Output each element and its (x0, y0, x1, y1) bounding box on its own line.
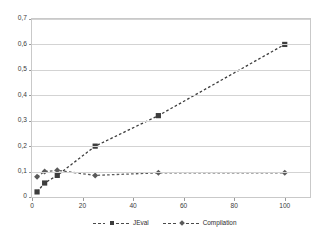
chart-container: 00,10,20,30,40,50,60,7 020406080100 JEva… (0, 0, 329, 246)
legend-item-compilation[interactable]: Compilation (163, 220, 237, 226)
legend-label-jeval: JEval (133, 220, 149, 226)
legend-line-dash-icon (186, 223, 201, 224)
legend-line-dash-icon (116, 223, 131, 224)
legend-square-marker-icon (110, 221, 115, 226)
data-point-square-marker (42, 180, 47, 185)
x-axis-tick-label: 0 (30, 203, 34, 210)
gridline (32, 95, 310, 96)
chart-legend: JEval Compilation (0, 220, 329, 226)
x-axis-tick-label: 20 (79, 203, 86, 210)
y-axis-tick-label: 0 (23, 193, 27, 200)
legend-item-jeval[interactable]: JEval (93, 220, 149, 226)
y-axis-tick-label: 0,7 (18, 15, 27, 22)
data-series-layer (32, 19, 310, 197)
x-axis-tick-label: 40 (129, 203, 136, 210)
data-point-diamond-marker (92, 172, 98, 178)
data-point-square-marker (34, 189, 39, 194)
legend-line-dash-icon (163, 223, 178, 224)
gridline (32, 70, 310, 71)
gridline (32, 146, 310, 147)
gridline (32, 19, 310, 20)
x-axis-tick-mark (184, 198, 185, 201)
x-axis-tick-mark (83, 198, 84, 201)
legend-diamond-marker-icon (179, 220, 185, 226)
legend-label-compilation: Compilation (203, 220, 237, 226)
x-axis-tick-label: 60 (180, 203, 187, 210)
plot-inner (32, 19, 310, 197)
x-axis-tick-label: 100 (279, 203, 290, 210)
y-axis: 00,10,20,30,40,50,60,7 (0, 18, 29, 198)
gridline (32, 121, 310, 122)
legend-line-dash-icon (93, 223, 108, 224)
y-axis-tick-label: 0,4 (18, 92, 27, 99)
y-axis-tick-label: 0,1 (18, 168, 27, 175)
y-axis-tick-label: 0,5 (18, 66, 27, 73)
y-axis-tick-label: 0,6 (18, 41, 27, 48)
x-axis-tick-mark (133, 198, 134, 201)
x-axis-tick-mark (32, 198, 33, 201)
data-point-square-marker (55, 173, 60, 178)
x-axis-tick-mark (234, 198, 235, 201)
series-compilation (34, 167, 288, 179)
y-axis-tick-label: 0,2 (18, 143, 27, 150)
y-axis-tick-label: 0,3 (18, 117, 27, 124)
gridline (32, 44, 310, 45)
gridline (32, 172, 310, 173)
x-axis-tick-label: 80 (231, 203, 238, 210)
x-axis: 020406080100 (31, 198, 311, 218)
x-axis-tick-mark (285, 198, 286, 201)
data-point-diamond-marker (34, 174, 40, 180)
plot-area (31, 18, 311, 198)
data-point-square-marker (156, 113, 161, 118)
